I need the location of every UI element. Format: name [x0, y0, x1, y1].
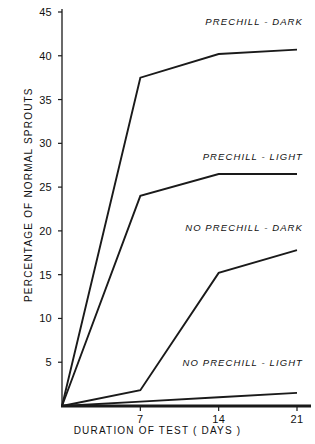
y-tick-label: 10: [22, 312, 52, 324]
y-tick-label: 40: [22, 50, 52, 62]
x-tick-label: 14: [204, 413, 234, 425]
series-label-2: NO PRECHILL - DARK: [185, 221, 303, 232]
y-tick-label: 25: [22, 181, 52, 193]
series-label-0: PRECHILL - DARK: [205, 15, 303, 26]
y-tick-label: 20: [22, 225, 52, 237]
series-line-2: [62, 250, 297, 406]
y-tick-label: 15: [22, 269, 52, 281]
x-axis-title: DURATION OF TEST ( DAYS ): [0, 425, 315, 436]
x-tick-label: 7: [125, 413, 155, 425]
x-tick-label: 21: [282, 413, 312, 425]
y-tick-label: 45: [22, 6, 52, 18]
y-tick-label: 5: [22, 356, 52, 368]
y-tick-label: 30: [22, 137, 52, 149]
series-label-1: PRECHILL - LIGHT: [203, 151, 303, 162]
chart-figure: PERCENTAGE OF NORMAL SPROUTS DURATION OF…: [0, 0, 315, 444]
series-line-1: [62, 174, 297, 406]
y-tick-label: 35: [22, 94, 52, 106]
series-label-3: NO PRECHILL - LIGHT: [183, 357, 304, 368]
